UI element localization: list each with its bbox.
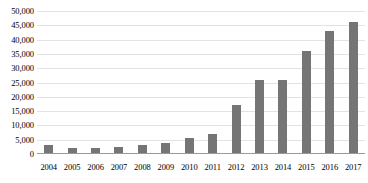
bar [349,22,358,154]
bar-slot [37,11,60,154]
x-tick-label: 2012 [228,162,245,172]
x-tick-slot: 2010 [178,156,201,174]
x-axis: 2004200520062007200820092010201120122013… [37,156,365,174]
bar-slot [107,11,130,154]
x-tick-slot: 2008 [131,156,154,174]
bar [255,80,264,154]
bar-slot [271,11,294,154]
bar-slot [318,11,341,154]
bar [185,138,194,154]
x-tick-label: 2007 [111,162,128,172]
x-tick-slot: 2017 [341,156,364,174]
y-tick-label: 40,000 [0,35,34,44]
x-tick-slot: 2013 [248,156,271,174]
x-tick-slot: 2014 [271,156,294,174]
bar-slot [295,11,318,154]
bar [278,80,287,154]
y-tick-label: 50,000 [0,7,34,16]
x-tick-label: 2013 [251,162,268,172]
x-tick-slot: 2007 [107,156,130,174]
x-tick-label: 2008 [134,162,151,172]
x-tick-label: 2005 [64,162,81,172]
y-tick-label: 10,000 [0,121,34,130]
bar-slot [341,11,364,154]
bar [232,105,241,154]
y-tick-label: 20,000 [0,93,34,102]
axis-baseline [37,153,365,154]
x-tick-slot: 2011 [201,156,224,174]
y-tick-label: 5,000 [0,135,34,144]
bar [208,134,217,154]
x-tick-label: 2006 [87,162,104,172]
x-tick-slot: 2004 [37,156,60,174]
x-tick-label: 2011 [205,162,221,172]
y-tick-label: 0 [0,150,34,159]
x-tick-slot: 2015 [295,156,318,174]
x-tick-label: 2009 [158,162,175,172]
bar [325,31,334,154]
bar [302,51,311,154]
y-tick-label: 25,000 [0,78,34,87]
y-tick-label: 15,000 [0,107,34,116]
bar-slot [154,11,177,154]
bar-slot [224,11,247,154]
y-axis: 50,00045,00040,00035,00030,00025,00020,0… [0,0,34,183]
x-tick-label: 2014 [275,162,292,172]
y-tick-label: 35,000 [0,50,34,59]
x-tick-label: 2015 [298,162,315,172]
x-tick-slot: 2009 [154,156,177,174]
bar-slot [84,11,107,154]
y-tick-label: 45,000 [0,21,34,30]
bar-slot [248,11,271,154]
x-tick-slot: 2006 [84,156,107,174]
y-tick-label: 30,000 [0,64,34,73]
x-tick-label: 2016 [321,162,338,172]
x-tick-label: 2010 [181,162,198,172]
bar-chart: 50,00045,00040,00035,00030,00025,00020,0… [0,0,368,183]
x-tick-slot: 2005 [60,156,83,174]
bar-slot [178,11,201,154]
bar-series [37,11,365,154]
bar-slot [201,11,224,154]
bar-slot [131,11,154,154]
bar-slot [60,11,83,154]
x-tick-label: 2004 [40,162,57,172]
plot-area [37,11,365,154]
x-tick-slot: 2016 [318,156,341,174]
x-tick-slot: 2012 [224,156,247,174]
x-tick-label: 2017 [345,162,362,172]
